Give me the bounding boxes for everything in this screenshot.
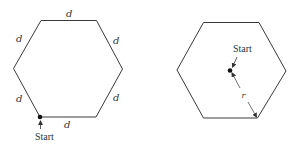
left-panel: d d d d d d Start (14, 8, 123, 142)
start-point (38, 115, 43, 120)
radius-label: r (242, 91, 247, 100)
side-label-lower-right: d (113, 92, 119, 103)
radius-line-upper (232, 73, 240, 88)
side-label-lower-left: d (16, 93, 22, 104)
start-label: Start (35, 131, 54, 142)
radius-line-lower (248, 102, 257, 117)
start-label: Start (233, 43, 252, 54)
start-arrow (233, 57, 238, 67)
side-label-top: d (66, 8, 72, 19)
side-label-bottom: d (64, 119, 70, 130)
side-label-upper-left: d (16, 33, 22, 44)
right-panel: Start r (177, 23, 286, 119)
side-label-upper-right: d (113, 35, 119, 46)
left-hexagon (14, 21, 123, 118)
hexagon-diagram: d d d d d d Start Start r (0, 0, 302, 149)
start-point (228, 68, 233, 73)
